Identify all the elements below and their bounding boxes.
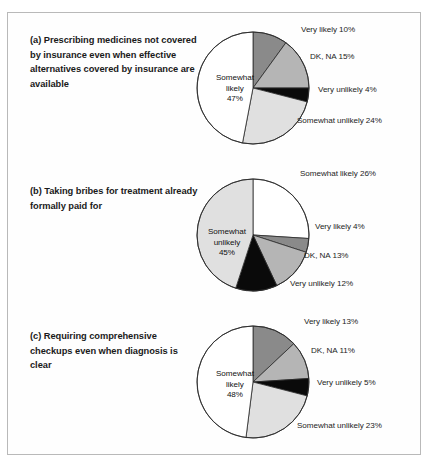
inner-label-line: 47% — [216, 94, 254, 105]
pie-slice — [253, 179, 309, 239]
slice-label: Somewhat likely 26% — [300, 169, 376, 178]
panel-b-caption: (b) Taking bribes for treatment already … — [30, 184, 200, 213]
slice-label: Very unlikely 4% — [318, 85, 377, 94]
inner-label-line: Somewhat — [216, 369, 254, 380]
panel-c-inner-label: Somewhatlikely48% — [216, 369, 254, 401]
slice-label: Very likely 13% — [304, 317, 358, 326]
panel-b-pie-chart: Somewhatunlikely45% Somewhat likely 26%V… — [194, 166, 418, 306]
slice-label: Very unlikely 12% — [290, 279, 353, 288]
slice-label: DK, NA 11% — [311, 346, 355, 355]
inner-label-line: 48% — [216, 390, 254, 401]
slice-label: Very likely 10% — [301, 25, 355, 34]
inner-label-line: unlikely — [208, 238, 246, 249]
panel-a-pie-chart: Somewhatlikely47% Very likely 10%DK, NA … — [194, 19, 418, 159]
slice-label: Very likely 4% — [315, 222, 365, 231]
panel-c-pie-chart: Somewhatlikely48% Very likely 13%DK, NA … — [194, 313, 418, 453]
slice-label: Very unlikely 5% — [317, 378, 376, 387]
panel-c-caption: (c) Requiring comprehensive checkups eve… — [30, 329, 200, 373]
inner-label-line: Somewhat — [216, 73, 254, 84]
panel-c: (c) Requiring comprehensive checkups eve… — [8, 309, 420, 456]
inner-label-line: likely — [216, 84, 254, 95]
panel-b-inner-label: Somewhatunlikely45% — [208, 227, 246, 259]
panel-a-caption: (a) Prescribing medicines not covered by… — [30, 33, 200, 91]
inner-label-line: Somewhat — [208, 227, 246, 238]
slice-label: Somewhat unlikely 24% — [297, 116, 382, 125]
panel-b: (b) Taking bribes for treatment already … — [8, 162, 420, 309]
inner-label-line: 45% — [208, 248, 246, 259]
inner-label-line: likely — [216, 380, 254, 391]
panel-a: (a) Prescribing medicines not covered by… — [8, 15, 420, 162]
slice-label: DK, NA 13% — [304, 251, 349, 260]
slice-label: DK, NA 15% — [310, 52, 355, 61]
figure-panel: (a) Prescribing medicines not covered by… — [7, 12, 421, 455]
panel-a-inner-label: Somewhatlikely47% — [216, 73, 254, 105]
slice-label: Somewhat unlikely 23% — [297, 421, 382, 430]
